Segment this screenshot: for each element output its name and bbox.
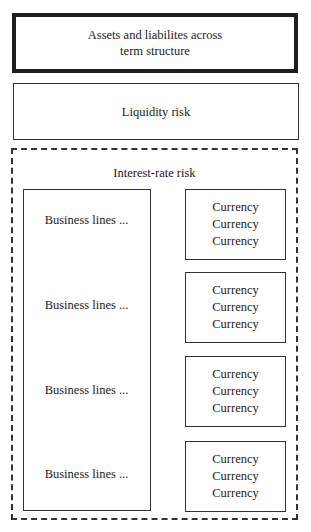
currency-label: Currency [212,383,259,400]
currency-label: Currency [212,233,259,250]
currency-label: Currency [212,468,259,485]
currency-label: Currency [212,299,259,316]
currency-label: Currency [212,485,259,502]
liquidity-risk-box: Liquidity risk [13,83,299,140]
currency-label: Currency [212,216,259,233]
currency-box: Currency Currency Currency [185,272,286,343]
interest-rate-risk-label: Interest-rate risk [11,165,298,181]
business-lines-label: Business lines ... [23,467,150,482]
assets-liabilities-label-line2: term structure [88,43,222,59]
currency-label: Currency [212,400,259,417]
currency-box: Currency Currency Currency [185,189,286,260]
currency-label: Currency [212,316,259,333]
currency-box: Currency Currency Currency [185,356,286,427]
business-lines-label: Business lines ... [23,383,150,398]
business-lines-box [23,189,151,511]
business-lines-label: Business lines ... [23,213,150,228]
currency-box: Currency Currency Currency [185,441,286,512]
business-lines-label: Business lines ... [23,298,150,313]
currency-label: Currency [212,282,259,299]
currency-label: Currency [212,451,259,468]
assets-liabilities-box: Assets and liabilites across term struct… [12,13,298,73]
currency-label: Currency [212,199,259,216]
liquidity-risk-label: Liquidity risk [122,104,190,120]
assets-liabilities-label-line1: Assets and liabilites across [88,27,222,43]
currency-label: Currency [212,366,259,383]
